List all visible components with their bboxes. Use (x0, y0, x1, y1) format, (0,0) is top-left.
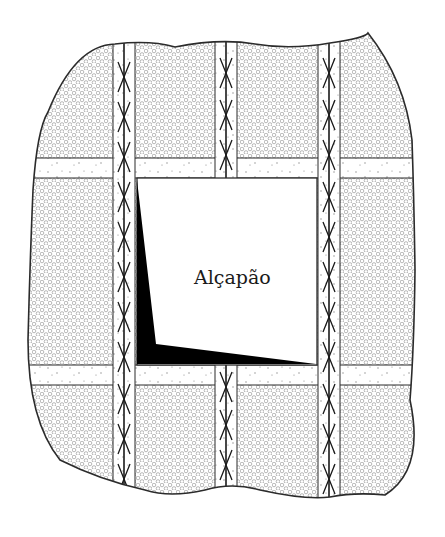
joist-right (318, 0, 340, 537)
trapdoor-label: Alçapão (194, 266, 271, 288)
joist-left (113, 0, 135, 537)
trapdoor-diagram: Alçapão (0, 0, 445, 537)
